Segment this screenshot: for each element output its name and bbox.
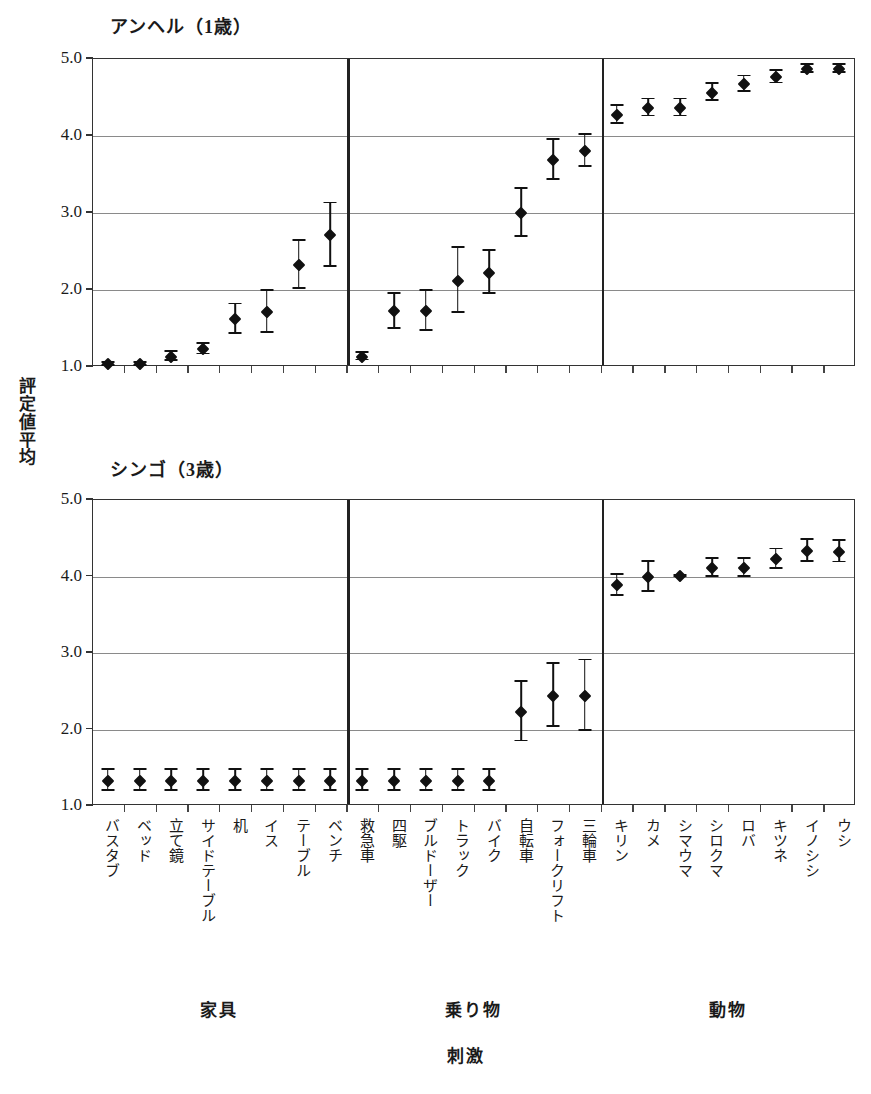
data-point [610, 584, 624, 586]
error-cap-lower [260, 789, 273, 791]
error-cap-lower [419, 329, 432, 331]
data-point [737, 567, 751, 569]
y-axis-tick-label: 1.0 [36, 356, 82, 376]
data-point [546, 695, 560, 697]
error-cap-upper [260, 768, 273, 770]
x-axis-tick [791, 366, 792, 373]
error-cap-upper [833, 539, 846, 541]
data-point [673, 107, 687, 109]
data-point [451, 280, 465, 282]
x-axis-category-label: 三輪車 [574, 818, 596, 863]
y-axis-tick [86, 134, 93, 135]
x-axis-tick [760, 805, 761, 812]
error-cap-upper [483, 249, 496, 251]
x-axis-tick [505, 805, 506, 812]
data-point [610, 114, 624, 116]
x-axis-tick [156, 366, 157, 373]
data-point [769, 76, 783, 78]
x-axis-category-label: イノシシ [796, 818, 818, 878]
y-axis-caption: 評 定 値 平 均 [10, 378, 44, 467]
error-cap-upper [451, 768, 464, 770]
plot-area-2 [92, 499, 855, 805]
error-cap-upper [292, 768, 305, 770]
error-cap-upper [642, 560, 655, 562]
error-cap-upper [324, 202, 337, 204]
x-axis-tick [728, 366, 729, 373]
x-axis-category-label: 救急車 [351, 818, 373, 863]
x-axis-tick [442, 366, 443, 373]
error-cap-lower [578, 729, 591, 731]
data-point [292, 264, 306, 266]
panel-title-1: アンヘル（1歳） [110, 12, 252, 38]
x-axis-tick [251, 366, 252, 373]
error-cap-upper [101, 768, 114, 770]
error-cap-lower [101, 789, 114, 791]
x-axis-category-label: カメ [637, 818, 659, 848]
error-cap-lower [260, 331, 273, 333]
x-axis-category-label: ベッド [129, 818, 151, 863]
data-point [641, 107, 655, 109]
error-cap-lower [324, 265, 337, 267]
error-cap-upper [737, 557, 750, 559]
error-cap-lower [642, 590, 655, 592]
error-cap-lower [197, 789, 210, 791]
x-axis-caption: 刺激 [447, 1042, 485, 1067]
error-cap-lower [483, 789, 496, 791]
group-divider [602, 500, 604, 804]
data-point [355, 356, 369, 358]
error-cap-upper [419, 289, 432, 291]
y-axis-tick [86, 575, 93, 576]
data-point [832, 551, 846, 553]
x-axis-category-label: フォークリフト [542, 818, 564, 923]
data-point [101, 363, 115, 365]
x-axis-tick [378, 805, 379, 812]
error-cap-upper [801, 538, 814, 540]
x-axis-tick [601, 805, 602, 812]
data-point [164, 780, 178, 782]
x-axis-category-label: サイドテーブル [192, 818, 214, 923]
error-cap-lower [388, 327, 401, 329]
error-cap-lower [801, 560, 814, 562]
x-axis-tick [251, 805, 252, 812]
data-point [800, 68, 814, 70]
error-cap-upper [674, 98, 687, 100]
error-cap-lower [833, 561, 846, 563]
x-axis-tick [823, 366, 824, 373]
error-cap-upper [515, 680, 528, 682]
error-cap-upper [324, 768, 337, 770]
x-axis-tick [124, 366, 125, 373]
x-axis-category-label: 四駆 [383, 818, 405, 848]
x-axis-tick [474, 805, 475, 812]
error-cap-upper [737, 75, 750, 77]
x-axis-tick [124, 805, 125, 812]
data-point [673, 575, 687, 577]
data-point [387, 310, 401, 312]
error-cap-upper [165, 768, 178, 770]
error-cap-lower [610, 122, 623, 124]
x-axis-tick [346, 805, 347, 812]
data-point [578, 150, 592, 152]
data-point [800, 550, 814, 552]
error-cap-lower [324, 789, 337, 791]
y-axis-tick-label: 2.0 [36, 719, 82, 739]
x-axis-tick [156, 805, 157, 812]
error-cap-upper [229, 303, 242, 305]
error-cap-lower [133, 789, 146, 791]
x-axis-tick [537, 366, 538, 373]
y-axis-tick-label: 2.0 [36, 279, 82, 299]
x-axis-tick [696, 366, 697, 373]
x-axis-category-label: バイク [478, 818, 500, 863]
x-axis-tick [569, 366, 570, 373]
gridline [93, 653, 854, 654]
data-point [323, 780, 337, 782]
error-cap-upper [483, 768, 496, 770]
x-axis-tick [378, 366, 379, 373]
gridline [93, 730, 854, 731]
error-cap-lower [292, 287, 305, 289]
y-axis-tick [86, 57, 93, 58]
data-point [323, 234, 337, 236]
x-axis-tick [410, 805, 411, 812]
data-point [769, 558, 783, 560]
data-point [228, 780, 242, 782]
y-axis-tick-label: 1.0 [36, 795, 82, 815]
